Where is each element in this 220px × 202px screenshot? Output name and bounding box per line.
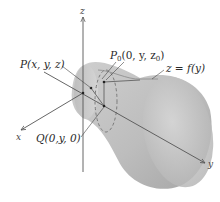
label-point-q: Q(0,y, 0): [36, 132, 81, 145]
label-point-p: P(x, y, z): [19, 58, 65, 70]
surface-of-revolution-diagram: z x y P(x, y, z) P0(0, y, z0) z = f(y) Q…: [0, 0, 220, 202]
surface-neck-cap: [74, 65, 98, 119]
x-axis: [21, 93, 83, 130]
z-axis-label: z: [79, 6, 85, 16]
point-q: [103, 105, 106, 108]
label-curve: z = f(y): [165, 62, 205, 74]
label-point-p0: P0(0, y, z0): [109, 49, 164, 63]
point-p0: [103, 81, 106, 84]
x-axis-label: x: [16, 132, 21, 142]
point-origin: [82, 92, 85, 95]
surface: [72, 62, 220, 194]
label-p0-close: ): [160, 49, 164, 61]
y-axis-label: y: [207, 159, 214, 169]
label-p0-args: (0, y, z: [122, 49, 157, 61]
